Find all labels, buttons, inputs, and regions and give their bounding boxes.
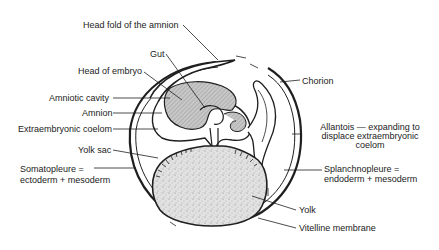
label-gut: Gut <box>150 49 165 59</box>
label-splanchnopleure-line2: endoderm + mesoderm <box>324 174 417 184</box>
label-head-of-embryo: Head of embryo <box>78 66 142 76</box>
label-somatopleure-line2: ectoderm + mesoderm <box>20 175 110 185</box>
label-allantois-line3: coelom <box>320 140 420 150</box>
label-vitelline-membrane: Vitelline membrane <box>299 223 376 233</box>
label-amniotic-cavity: Amniotic cavity <box>49 93 109 103</box>
embryo-head <box>164 82 236 129</box>
yolk-sac <box>153 146 267 226</box>
gut-right-fold <box>224 112 246 132</box>
label-chorion: Chorion <box>302 76 334 86</box>
label-extraembryonic-coelom: Extraembryonic coelom <box>18 124 112 134</box>
label-yolk: Yolk <box>299 205 316 215</box>
label-somatopleure-line1: Somatopleure = <box>20 164 84 174</box>
label-head-fold-amnion: Head fold of the amnion <box>83 20 179 30</box>
label-yolk-sac: Yolk sac <box>78 145 111 155</box>
label-amnion: Amnion <box>82 108 113 118</box>
label-splanchnopleure-line1: Splanchnopleure = <box>324 164 399 174</box>
yolk-stalk <box>210 128 218 146</box>
